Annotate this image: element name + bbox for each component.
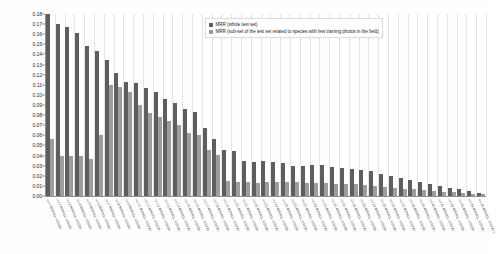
bar-group[interactable] [212, 14, 222, 196]
bar-series2[interactable] [393, 188, 397, 196]
bar-series2[interactable] [432, 191, 436, 196]
bar-series2[interactable] [128, 92, 132, 196]
bar-group[interactable] [310, 14, 320, 196]
y-axis-tick-label: 0.09 [32, 102, 42, 108]
bar-group[interactable] [388, 14, 398, 196]
y-axis-tick-label: 0.07 [32, 122, 42, 128]
bar-series2[interactable] [226, 181, 230, 196]
bar-group[interactable] [153, 14, 163, 196]
bar-group[interactable] [466, 14, 476, 196]
bar-series2[interactable] [50, 139, 54, 196]
bar-group[interactable] [84, 14, 94, 196]
bar-group[interactable] [319, 14, 329, 196]
bar-group[interactable] [261, 14, 271, 196]
bar-group[interactable] [456, 14, 466, 196]
bar-group[interactable] [192, 14, 202, 196]
bar-group[interactable] [359, 14, 369, 196]
bar-group[interactable] [45, 14, 55, 196]
bar-series2[interactable] [403, 189, 407, 196]
bar-series2[interactable] [305, 183, 309, 196]
y-axis-tick-label: 0.05 [32, 142, 42, 148]
bar-series2[interactable] [422, 190, 426, 196]
bar-series2[interactable] [79, 156, 83, 196]
bar-series2[interactable] [148, 113, 152, 196]
bar-series2[interactable] [236, 182, 240, 196]
bar-series2[interactable] [461, 193, 465, 196]
bar-group[interactable] [221, 14, 231, 196]
bar-group[interactable] [476, 14, 486, 196]
bar-group[interactable] [447, 14, 457, 196]
bar-series2[interactable] [275, 182, 279, 196]
bar-series2[interactable] [314, 183, 318, 196]
bar-group[interactable] [417, 14, 427, 196]
bar-group[interactable] [349, 14, 359, 196]
y-axis-tick-label: 0.12 [32, 72, 42, 78]
bar-series2[interactable] [354, 184, 358, 196]
legend-item-series1: MRR (whole test set) [209, 21, 379, 28]
bar-group[interactable] [231, 14, 241, 196]
bar-series2[interactable] [285, 182, 289, 196]
bar-group[interactable] [114, 14, 124, 196]
bar-group[interactable] [280, 14, 290, 196]
bar-series2[interactable] [295, 182, 299, 196]
y-axis-tick-label: 0.13 [32, 62, 42, 68]
bar-series2[interactable] [177, 125, 181, 196]
bar-series2[interactable] [187, 133, 191, 196]
bar-group[interactable] [339, 14, 349, 196]
bar-series2[interactable] [383, 187, 387, 196]
bar-series2[interactable] [334, 184, 338, 196]
bar-group[interactable] [202, 14, 212, 196]
bar-group[interactable] [407, 14, 417, 196]
bar-series2[interactable] [246, 182, 250, 196]
bar-series2[interactable] [452, 192, 456, 196]
bar-group[interactable] [133, 14, 143, 196]
bar-series2[interactable] [167, 121, 171, 196]
bar-group[interactable] [270, 14, 280, 196]
bar-series2[interactable] [412, 189, 416, 196]
bar-series2[interactable] [138, 105, 142, 196]
bar-series2[interactable] [118, 87, 122, 196]
bar-group[interactable] [94, 14, 104, 196]
bar-group[interactable] [65, 14, 75, 196]
bar-group[interactable] [427, 14, 437, 196]
bar-group[interactable] [182, 14, 192, 196]
bar-group[interactable] [172, 14, 182, 196]
bar-series2[interactable] [373, 186, 377, 196]
bar-series2[interactable] [265, 182, 269, 196]
bar-group[interactable] [123, 14, 133, 196]
bar-group[interactable] [437, 14, 447, 196]
bar-group[interactable] [104, 14, 114, 196]
bar-group[interactable] [398, 14, 408, 196]
bar-series2[interactable] [442, 192, 446, 196]
bar-series2[interactable] [344, 184, 348, 196]
y-axis-tick-label: 0.00 [32, 193, 42, 199]
bar-series2[interactable] [60, 156, 64, 196]
y-axis-tick-label: 0.18 [32, 11, 42, 17]
bar-series2[interactable] [158, 117, 162, 196]
bar-group[interactable] [290, 14, 300, 196]
bar-group[interactable] [143, 14, 153, 196]
bar-series2[interactable] [69, 156, 73, 196]
bar-group[interactable] [329, 14, 339, 196]
legend-swatch-icon [209, 30, 213, 34]
bar-group[interactable] [74, 14, 84, 196]
bar-series2[interactable] [99, 135, 103, 196]
bar-series2[interactable] [471, 194, 475, 196]
bar-series2[interactable] [197, 135, 201, 196]
bar-series2[interactable] [324, 183, 328, 196]
bar-series2[interactable] [363, 185, 367, 196]
bar-group[interactable] [251, 14, 261, 196]
bar-group[interactable] [368, 14, 378, 196]
bar-group[interactable] [241, 14, 251, 196]
bar-series2[interactable] [207, 150, 211, 197]
bar-series2[interactable] [89, 159, 93, 196]
bar-series2[interactable] [216, 155, 220, 196]
bar-group[interactable] [55, 14, 65, 196]
bar-series2[interactable] [481, 194, 485, 196]
bar-group[interactable] [300, 14, 310, 196]
bar-series2[interactable] [256, 183, 260, 196]
bar-group[interactable] [378, 14, 388, 196]
bar-series2[interactable] [109, 85, 113, 196]
bar-group[interactable] [163, 14, 173, 196]
